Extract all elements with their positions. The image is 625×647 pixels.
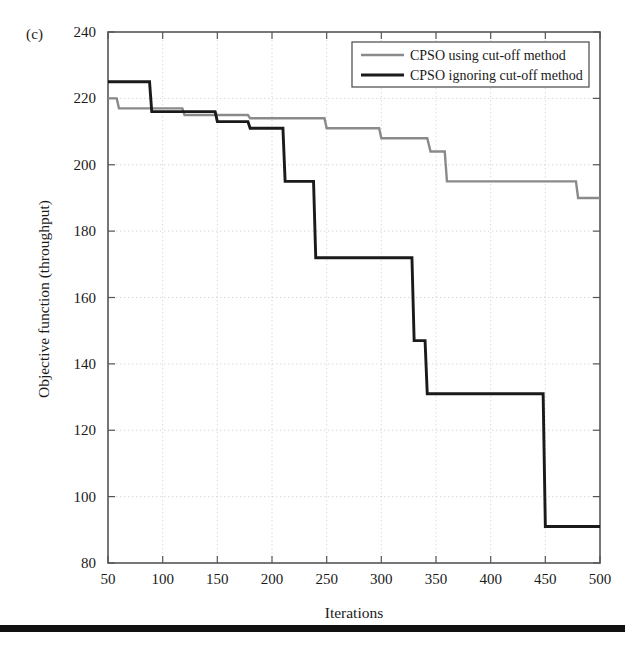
bottom-rule-divider xyxy=(0,625,625,632)
chart-legend: CPSO using cut-off methodCPSO ignoring c… xyxy=(352,42,589,87)
figure-panel-c: (c) Objective function (throughput) Iter… xyxy=(0,0,625,647)
legend-label-1: CPSO ignoring cut-off method xyxy=(410,68,583,83)
legend-label-0: CPSO using cut-off method xyxy=(410,48,566,63)
series-line-ignoring-cutoff xyxy=(108,82,600,527)
series-line-cutoff xyxy=(108,98,600,198)
chart-plot-area: CPSO using cut-off methodCPSO ignoring c… xyxy=(0,0,625,647)
data-series-layer xyxy=(108,82,600,527)
